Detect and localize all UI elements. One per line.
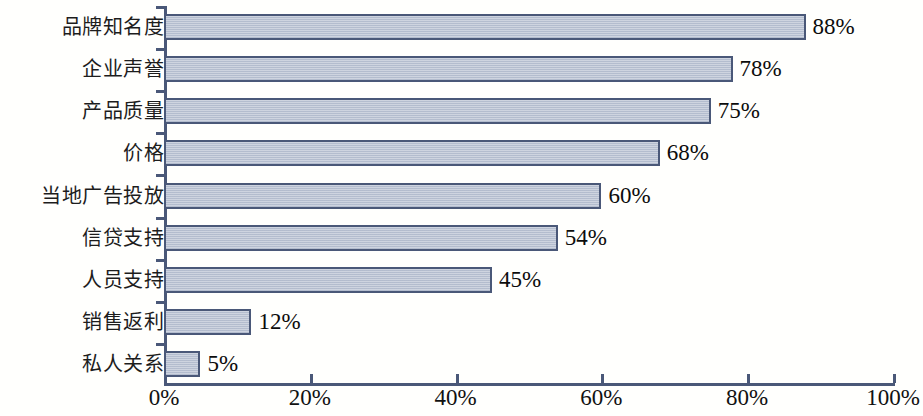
y-axis-tick xyxy=(156,343,164,346)
x-axis-tick-label: 60% xyxy=(580,386,622,409)
bar xyxy=(164,183,601,209)
y-axis-tick xyxy=(156,48,164,51)
x-axis-tick-label: 40% xyxy=(435,386,477,409)
x-axis-tick-label: 0% xyxy=(149,386,180,409)
bar-value-label: 68% xyxy=(667,141,709,164)
x-axis-tick xyxy=(456,374,459,383)
bar-value-label: 60% xyxy=(608,184,650,207)
horizontal-bar-chart: 品牌知名度企业声誉产品质量价格当地广告投放信贷支持人员支持销售返利私人关系 88… xyxy=(0,0,923,416)
bar-value-label: 54% xyxy=(565,226,607,249)
x-axis-tick xyxy=(310,374,313,383)
y-axis-tick xyxy=(156,217,164,220)
bar xyxy=(164,98,711,124)
bar-value-label: 12% xyxy=(258,310,300,333)
y-axis-tick xyxy=(156,90,164,93)
bar xyxy=(164,351,200,377)
y-axis-tick xyxy=(156,132,164,135)
x-axis-tick-label: 20% xyxy=(289,386,331,409)
category-label: 人员支持 xyxy=(14,270,164,290)
y-axis-tick xyxy=(156,6,164,9)
bar xyxy=(164,56,733,82)
bar-value-label: 78% xyxy=(740,57,782,80)
bar xyxy=(164,140,660,166)
plot-area: 88%78%75%68%60%54%45%12%5% xyxy=(164,6,893,385)
y-axis-tick xyxy=(156,301,164,304)
bar xyxy=(164,267,492,293)
x-axis-tick xyxy=(601,374,604,383)
x-axis-tick-label: 100% xyxy=(866,386,920,409)
bar xyxy=(164,14,806,40)
x-axis-line xyxy=(164,383,895,386)
x-axis-tick xyxy=(747,374,750,383)
bar-value-label: 5% xyxy=(207,352,238,375)
category-label: 产品质量 xyxy=(14,101,164,121)
category-label: 品牌知名度 xyxy=(14,17,164,37)
bar-value-label: 88% xyxy=(813,15,855,38)
category-label: 销售返利 xyxy=(14,312,164,332)
bar-value-label: 75% xyxy=(718,99,760,122)
category-label: 当地广告投放 xyxy=(14,186,164,206)
category-label: 信贷支持 xyxy=(14,228,164,248)
category-label: 企业声誉 xyxy=(14,59,164,79)
x-axis-tick-label: 80% xyxy=(726,386,768,409)
category-label: 价格 xyxy=(14,143,164,163)
y-axis-tick xyxy=(156,174,164,177)
x-axis-tick xyxy=(893,374,896,383)
bar xyxy=(164,225,558,251)
y-axis-tick xyxy=(156,259,164,262)
category-label: 私人关系 xyxy=(14,354,164,374)
bar-value-label: 45% xyxy=(499,268,541,291)
bar xyxy=(164,309,251,335)
